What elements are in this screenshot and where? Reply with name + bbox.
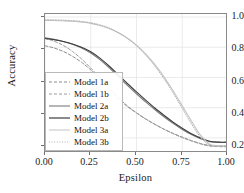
x-tick-mark — [89, 152, 90, 155]
legend-label-model-1b: Model 1b — [74, 89, 109, 99]
legend-line-sample-2b — [49, 113, 70, 123]
legend-line-sample-1b — [49, 89, 70, 99]
x-tick-label-3: 0.50 — [115, 157, 155, 167]
x-tick-label-5: 1.00 — [206, 157, 244, 167]
y-axis-label: Accuracy — [6, 31, 17, 101]
legend-label-model-1a: Model 1a — [74, 77, 108, 87]
x-tick-label-4: 0.75 — [161, 157, 201, 167]
legend-label-model-3a: Model 3a — [74, 125, 108, 135]
legend-item-model-2a[interactable]: Model 2a — [49, 100, 119, 112]
x-tick-mark — [135, 152, 136, 155]
legend-item-model-1a[interactable]: Model 1a — [49, 76, 119, 88]
x-tick-mark — [44, 152, 45, 155]
legend-label-model-2b: Model 2b — [74, 113, 109, 123]
x-axis-label: Epsilon — [44, 172, 227, 183]
legend-line-sample-3a — [49, 125, 70, 135]
legend-label-model-3b: Model 3b — [74, 137, 109, 147]
legend-line-sample-3b — [49, 137, 70, 147]
legend-item-model-3a[interactable]: Model 3a — [49, 124, 119, 136]
legend-item-model-1b[interactable]: Model 1b — [49, 88, 119, 100]
legend-item-model-2b[interactable]: Model 2b — [49, 112, 119, 124]
x-tick-mark — [181, 152, 182, 155]
x-tick-mark — [226, 152, 227, 155]
chart-figure: Accuracy 1.0 0.8 0.6 0.4 0.2 0.00 0.25 0… — [0, 0, 244, 193]
legend: Model 1a Model 1b Model 2a Model 2b Mode… — [45, 72, 123, 151]
legend-line-sample-2a — [49, 101, 70, 111]
legend-line-sample-1a — [49, 77, 70, 87]
legend-item-model-3b[interactable]: Model 3b — [49, 136, 119, 148]
x-tick-label-1: 0.00 — [24, 157, 64, 167]
legend-label-model-2a: Model 2a — [74, 101, 108, 111]
x-tick-label-2: 0.25 — [69, 157, 109, 167]
